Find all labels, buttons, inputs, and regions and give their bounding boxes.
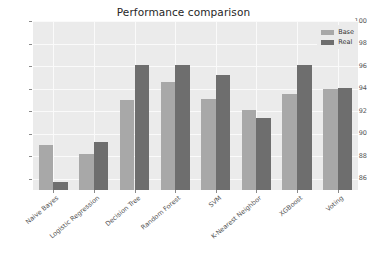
bar-real (256, 118, 271, 190)
x-tick-mark (256, 190, 257, 193)
legend-label-real: Real (338, 39, 352, 46)
plot-area (33, 21, 358, 190)
chart-figure: Performance comparison 86889092949698100… (0, 0, 367, 260)
legend-swatch-real-icon (321, 40, 334, 45)
bar-real (135, 65, 150, 190)
x-tick-mark (94, 190, 95, 193)
x-tick-mark (297, 190, 298, 193)
x-tick-mark (216, 190, 217, 193)
y-tick-mark (29, 111, 32, 112)
chart-title: Performance comparison (0, 6, 367, 18)
bar-base (323, 89, 338, 190)
bar-real (297, 65, 312, 190)
bar-real (338, 88, 353, 191)
bar-base (79, 154, 94, 190)
x-tick-mark (53, 190, 54, 193)
chart-legend: Base Real (317, 25, 358, 49)
y-tick-mark (29, 134, 32, 135)
x-tick-mark (135, 190, 136, 193)
legend-item-base: Base (321, 28, 354, 36)
y-tick-mark (29, 66, 32, 67)
bar-real (53, 182, 68, 190)
y-tick-mark (29, 179, 32, 180)
bars-layer (33, 21, 358, 190)
x-tick-mark (175, 190, 176, 193)
y-tick-mark (29, 21, 32, 22)
y-tick-mark (29, 156, 32, 157)
x-tick-mark (338, 190, 339, 193)
bar-base (120, 100, 135, 190)
legend-label-base: Base (338, 29, 354, 36)
bar-real (216, 75, 231, 190)
bar-real (94, 142, 109, 190)
bar-real (175, 65, 190, 190)
bar-base (201, 99, 216, 190)
legend-item-real: Real (321, 38, 354, 46)
bar-base (282, 94, 297, 190)
legend-swatch-base-icon (321, 30, 334, 35)
bar-base (161, 82, 176, 190)
y-tick-mark (29, 89, 32, 90)
y-tick-mark (29, 44, 32, 45)
bar-base (242, 110, 257, 190)
bar-base (39, 145, 54, 190)
